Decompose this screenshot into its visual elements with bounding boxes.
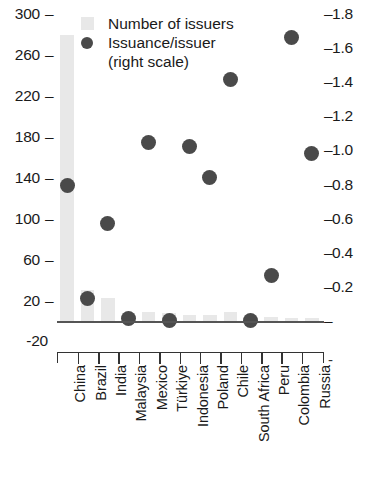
y-axis-left-tick-label: 180 <box>0 129 40 145</box>
dot-indonesia <box>182 139 197 154</box>
x-axis-tick-mark <box>78 353 80 364</box>
x-axis-label-poland: Poland <box>216 365 231 410</box>
x-axis-tick-mark <box>200 353 202 364</box>
dot-russia <box>304 146 319 161</box>
dot-colombia <box>284 30 299 45</box>
x-axis-tick-mark <box>302 353 304 364</box>
bar-india <box>101 298 114 322</box>
y-axis-right-tick-label: 0.2 <box>332 279 381 295</box>
y-axis-left-tick-mark: – <box>45 293 55 309</box>
y-axis-right-tick-label: 1.6 <box>332 40 381 56</box>
dot-malaysia <box>121 311 136 326</box>
y-axis-left-tick-label: 100 <box>0 211 40 227</box>
y-axis-left-tick-mark: – <box>45 129 55 145</box>
x-axis-tick-mark <box>180 353 182 364</box>
y-axis-left-tick-mark: – <box>45 211 55 227</box>
x-axis <box>57 352 324 363</box>
dot-india <box>100 216 115 231</box>
y-axis-left-tick-label: 140 <box>0 170 40 186</box>
y-axis-right-tick-label: 1.8 <box>332 6 381 22</box>
y-axis-left-tick-label: 300 <box>0 6 40 22</box>
plot-area <box>57 14 322 322</box>
y-axis-right-tick-label: 0.6 <box>332 211 381 227</box>
x-axis-label-india: India <box>114 365 129 396</box>
x-axis-label-peru: Peru <box>277 365 292 395</box>
y-axis-left-tick-label: -20 <box>0 333 48 349</box>
x-axis-label-south-africa: South Africa <box>257 365 272 442</box>
x-axis-label-malaysia: Malaysia <box>134 365 149 421</box>
x-axis-label-mexico: Mexico <box>155 365 170 410</box>
x-axis-tick-mark <box>118 353 120 364</box>
dot-peru <box>264 268 279 283</box>
x-axis-label-chile: Chile <box>236 365 251 398</box>
dot-poland <box>202 170 217 185</box>
x-axis-tick-mark <box>220 353 222 364</box>
y-axis-left-tick-label: 220 <box>0 88 40 104</box>
dot-china <box>60 178 75 193</box>
x-axis-label-china: China <box>73 365 88 402</box>
x-axis-tick-mark <box>241 353 243 364</box>
x-axis-label-türkiye: Türkiye <box>175 365 190 412</box>
dot-chile <box>223 72 238 87</box>
x-axis-tick-mark <box>159 353 161 364</box>
y-axis-left-tick-mark: – <box>45 170 55 186</box>
x-axis-label-indonesia: Indonesia <box>196 365 211 427</box>
zero-baseline <box>57 321 324 323</box>
y-axis-right-tick-label: 1.2 <box>332 108 381 124</box>
y-axis-right-tick-label: 0.4 <box>332 245 381 261</box>
x-axis-label-russia: Russia <box>318 365 333 409</box>
dot-brazil <box>80 291 95 306</box>
x-axis-tick-mark <box>139 353 141 364</box>
y-axis-left-tick-label: 20 <box>0 293 40 309</box>
x-axis-tick-mark <box>261 353 263 364</box>
y-axis-left-tick-mark: – <box>45 47 55 63</box>
y-axis-left-tick-mark: – <box>45 88 55 104</box>
y-axis-right-tick-label: 0.8 <box>332 177 381 193</box>
x-axis-tick-mark <box>281 353 283 364</box>
x-axis-label-colombia: Colombia <box>297 365 312 425</box>
x-axis-label-brazil: Brazil <box>94 365 109 401</box>
dot-mexico <box>141 135 156 150</box>
y-axis-left-tick-label: 60 <box>0 252 40 268</box>
y-axis-left-tick-label: 260 <box>0 47 40 63</box>
y-axis-right-tick-label: 1.4 <box>332 74 381 90</box>
y-axis-right-tick-mark: – <box>324 313 334 329</box>
x-axis-tick-mark <box>98 353 100 364</box>
y-axis-right-tick-label: 1.0 <box>332 142 381 158</box>
y-axis-left-tick-mark: – <box>45 6 55 22</box>
chart-container: Number of issuers Issuance/issuer (right… <box>0 0 381 477</box>
y-axis-left-tick-mark: – <box>45 252 55 268</box>
